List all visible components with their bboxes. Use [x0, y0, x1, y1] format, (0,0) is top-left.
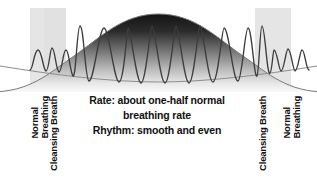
annotation-rate-line2: breathing rate — [62, 108, 252, 123]
annotation-rhythm: Rhythm: smooth and even — [62, 123, 252, 138]
annotation-rate-line1: Rate: about one-half normal — [62, 93, 252, 108]
label-cleansing-breath-left: Cleansing Breath — [49, 96, 59, 171]
intensity-envelope-fill — [0, 14, 317, 92]
center-annotation-block: Rate: about one-half normal breathing ra… — [62, 93, 252, 138]
label-cleansing-breath-right: Cleansing Breath — [258, 96, 268, 171]
label-normal-breathing-right: Normal Breathing — [282, 96, 302, 139]
